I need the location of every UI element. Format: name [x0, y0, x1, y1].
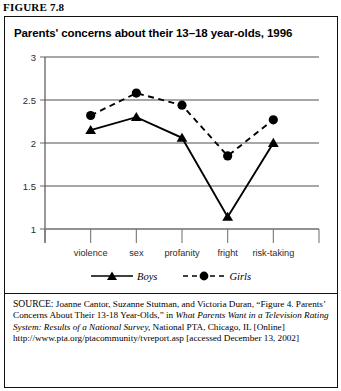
x-tick-label: risk-taking: [252, 248, 294, 258]
source-prefix: SOURCE:: [13, 298, 54, 309]
chart-legend: Boys Girls: [5, 270, 337, 290]
data-point-girls: [86, 111, 95, 120]
data-point-girls: [177, 101, 186, 110]
x-tick-label: violence: [74, 248, 108, 258]
x-tick-label: sex: [129, 248, 144, 258]
y-tick-label: 1.5: [23, 181, 36, 192]
data-point-girls: [223, 151, 232, 160]
x-tick-label: profanity: [164, 248, 200, 258]
legend-label-boys: Boys: [137, 271, 157, 282]
legend-boys-marker-icon: [91, 270, 133, 282]
y-tick-label: 2.5: [23, 95, 36, 106]
legend-item-girls: Girls: [183, 270, 251, 282]
y-tick-label: 2: [31, 138, 36, 149]
data-point-boys: [222, 212, 233, 221]
x-tick-label: fright: [217, 248, 238, 258]
line-chart: 11.522.53violencesexprofanityfrightrisk-…: [9, 47, 331, 269]
legend-girls-marker-icon: [183, 270, 225, 282]
legend-label-girls: Girls: [229, 271, 251, 282]
figure-label: FIGURE 7.8: [0, 0, 341, 16]
data-point-boys: [177, 133, 188, 142]
chart-title: Parents' concerns about their 13–18 year…: [5, 17, 337, 39]
data-point-boys: [131, 112, 142, 121]
data-point-girls: [269, 115, 278, 124]
figure-frame: Parents' concerns about their 13–18 year…: [4, 16, 338, 388]
data-point-girls: [132, 89, 141, 98]
legend-item-boys: Boys: [91, 270, 157, 282]
plot-area: 11.522.53violencesexprofanityfrightrisk-…: [9, 47, 331, 269]
series-line-boys: [91, 117, 274, 217]
figure-page: FIGURE 7.8 Parents' concerns about their…: [0, 0, 341, 391]
y-tick-label: 3: [31, 52, 36, 63]
source-note: SOURCE: Joanne Cantor, Suzanne Stutman, …: [5, 294, 337, 345]
y-tick-label: 1: [31, 224, 36, 235]
